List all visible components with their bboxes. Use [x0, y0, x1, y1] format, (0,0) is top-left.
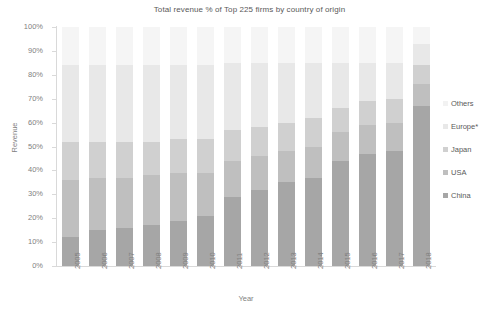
bar-segment-usa[interactable] — [170, 173, 187, 221]
bar-segment-europe[interactable] — [413, 44, 430, 66]
x-tick-label-text: 2009 — [181, 252, 190, 269]
bar-segment-usa[interactable] — [251, 156, 268, 189]
bar-column[interactable] — [359, 27, 376, 266]
bar-column[interactable] — [197, 27, 214, 266]
bar-segment-japan[interactable] — [413, 65, 430, 84]
bar-segment-usa[interactable] — [413, 84, 430, 106]
x-tick-label-text: 2006 — [100, 252, 109, 269]
x-tick-label-text: 2018 — [424, 252, 433, 269]
bar-segment-usa[interactable] — [278, 151, 295, 182]
legend-label: Japan — [451, 146, 471, 154]
bar-segment-others[interactable] — [170, 27, 187, 65]
stacked-bar-chart: Total revenue % of Top 225 firms by coun… — [0, 0, 499, 312]
bar-column[interactable] — [413, 27, 430, 266]
bar-segment-usa[interactable] — [197, 173, 214, 216]
bar-segment-others[interactable] — [278, 27, 295, 63]
bar-segment-japan[interactable] — [170, 139, 187, 172]
bar-segment-europe[interactable] — [386, 63, 403, 99]
bar-segment-usa[interactable] — [116, 178, 133, 228]
x-tick-label-text: 2007 — [127, 252, 136, 269]
bar-column[interactable] — [278, 27, 295, 266]
bar-segment-japan[interactable] — [251, 127, 268, 156]
bar-segment-usa[interactable] — [143, 175, 160, 225]
x-tick-label-text: 2012 — [262, 252, 271, 269]
bar-segment-europe[interactable] — [89, 65, 106, 141]
bar-segment-others[interactable] — [143, 27, 160, 65]
x-tick-label-text: 2015 — [343, 252, 352, 269]
legend-label: USA — [451, 169, 466, 177]
bar-segment-others[interactable] — [197, 27, 214, 65]
bar-segment-usa[interactable] — [332, 132, 349, 161]
bar-segment-japan[interactable] — [89, 142, 106, 178]
bar-segment-others[interactable] — [116, 27, 133, 65]
bar-segment-japan[interactable] — [224, 130, 241, 161]
y-tick-label: 70% — [28, 95, 43, 103]
bar-segment-usa[interactable] — [386, 123, 403, 152]
bar-column[interactable] — [305, 27, 322, 266]
legend-label: Europe* — [451, 123, 478, 131]
bar-segment-china[interactable] — [359, 154, 376, 266]
bar-segment-usa[interactable] — [224, 161, 241, 197]
y-tick-label: 50% — [28, 143, 43, 151]
bar-column[interactable] — [251, 27, 268, 266]
bar-segment-europe[interactable] — [332, 63, 349, 108]
bar-column[interactable] — [332, 27, 349, 266]
bar-segment-japan[interactable] — [62, 142, 79, 180]
bar-segment-japan[interactable] — [116, 142, 133, 178]
bar-column[interactable] — [224, 27, 241, 266]
y-tick-label: 60% — [28, 119, 43, 127]
bar-column[interactable] — [116, 27, 133, 266]
bar-segment-europe[interactable] — [170, 65, 187, 139]
bar-segment-others[interactable] — [386, 27, 403, 63]
bar-segment-others[interactable] — [305, 27, 322, 63]
bar-segment-japan[interactable] — [197, 139, 214, 172]
legend-label: China — [451, 192, 471, 200]
legend-swatch-icon — [443, 147, 448, 152]
bar-segment-europe[interactable] — [305, 63, 322, 118]
chart-legend: OthersEurope*JapanUSAChina — [443, 100, 499, 215]
bar-column[interactable] — [170, 27, 187, 266]
bar-segment-europe[interactable] — [359, 63, 376, 101]
bar-segment-china[interactable] — [413, 106, 430, 266]
bar-segment-europe[interactable] — [116, 65, 133, 141]
y-axis-tick-labels: 0%10%20%30%40%50%60%70%80%90%100% — [0, 0, 52, 312]
bar-column[interactable] — [386, 27, 403, 266]
x-tick-label-text: 2005 — [73, 252, 82, 269]
legend-item-japan[interactable]: Japan — [443, 146, 499, 169]
legend-item-china[interactable]: China — [443, 192, 499, 215]
bar-segment-others[interactable] — [62, 27, 79, 65]
bar-segment-others[interactable] — [224, 27, 241, 63]
y-axis-title: Revenue — [10, 108, 19, 168]
bar-segment-others[interactable] — [359, 27, 376, 63]
bar-segment-others[interactable] — [332, 27, 349, 63]
bar-segment-japan[interactable] — [359, 101, 376, 125]
bar-segment-china[interactable] — [332, 161, 349, 266]
bar-segment-others[interactable] — [413, 27, 430, 44]
legend-item-usa[interactable]: USA — [443, 169, 499, 192]
bar-segment-japan[interactable] — [278, 123, 295, 152]
legend-item-europe[interactable]: Europe* — [443, 123, 499, 146]
bar-segment-usa[interactable] — [62, 180, 79, 237]
bar-column[interactable] — [143, 27, 160, 266]
bar-segment-europe[interactable] — [197, 65, 214, 139]
bar-segment-japan[interactable] — [332, 108, 349, 132]
x-tick-label-text: 2011 — [235, 253, 244, 269]
bar-segment-japan[interactable] — [143, 142, 160, 175]
legend-label: Others — [451, 100, 474, 108]
bar-segment-usa[interactable] — [359, 125, 376, 154]
bar-segment-japan[interactable] — [386, 99, 403, 123]
bar-segment-europe[interactable] — [224, 63, 241, 130]
bar-segment-others[interactable] — [251, 27, 268, 63]
bar-column[interactable] — [62, 27, 79, 266]
bar-segment-others[interactable] — [89, 27, 106, 65]
bar-segment-europe[interactable] — [62, 65, 79, 141]
bar-segment-usa[interactable] — [89, 178, 106, 231]
bar-segment-europe[interactable] — [251, 63, 268, 128]
bar-segment-europe[interactable] — [278, 63, 295, 123]
bar-segment-europe[interactable] — [143, 65, 160, 141]
legend-item-others[interactable]: Others — [443, 100, 499, 123]
bar-segment-usa[interactable] — [305, 147, 322, 178]
bar-column[interactable] — [89, 27, 106, 266]
bar-segment-china[interactable] — [386, 151, 403, 266]
bar-segment-japan[interactable] — [305, 118, 322, 147]
